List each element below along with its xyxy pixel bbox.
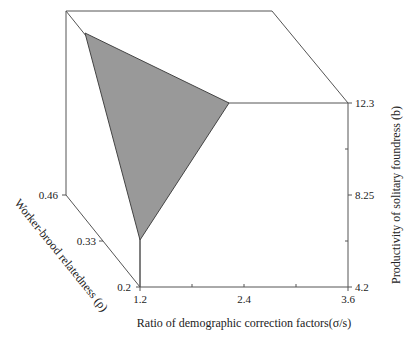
z-tick-1: 4.2 bbox=[355, 281, 369, 293]
y-tick-3: 0.46 bbox=[39, 189, 59, 201]
z-tick-3: 12.3 bbox=[355, 97, 375, 109]
x-axis-label: Ratio of demographic correction factors(… bbox=[137, 316, 351, 330]
chart-canvas: 1.2 2.4 3.6 Ratio of demographic correct… bbox=[0, 0, 414, 339]
x-tick-3: 3.6 bbox=[341, 293, 355, 305]
x-tick-1: 1.2 bbox=[133, 293, 147, 305]
chart-3d-region: 1.2 2.4 3.6 Ratio of demographic correct… bbox=[0, 0, 414, 339]
z-tick-2: 8.25 bbox=[355, 189, 375, 201]
y-tick-1: 0.2 bbox=[117, 281, 131, 293]
feasible-region bbox=[85, 33, 229, 240]
x-tick-2: 2.4 bbox=[237, 293, 251, 305]
z-axis-label: Productivity of solitary foundress (b) bbox=[389, 106, 403, 284]
y-tick-2: 0.33 bbox=[77, 235, 97, 247]
y-axis-label: Worker-brood relatedness (ρ) bbox=[12, 196, 111, 314]
